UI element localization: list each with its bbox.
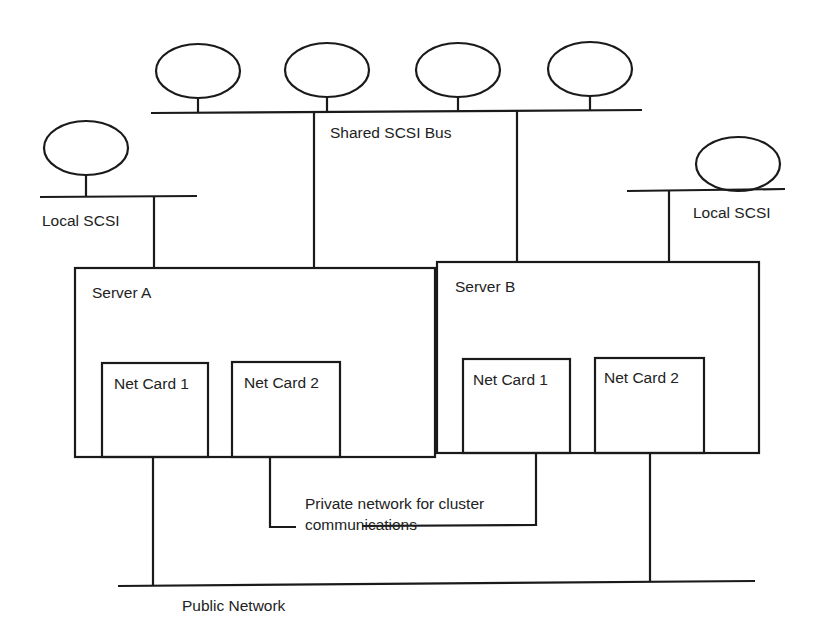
public-network-line [118,581,755,586]
server-b-label: Server B [455,278,515,296]
local-disk-a [44,121,128,196]
public-network-label: Public Network [182,597,285,615]
local-scsi-a-label: Local SCSI [42,212,120,230]
server-a-label: Server A [92,284,151,302]
private-network-label-line-2: communications [305,516,417,534]
shared-disk-1 [156,44,240,112]
shared-disk-2 [285,43,369,112]
private-network-label-line-1: Private network for cluster [305,495,484,513]
local-scsi-bus-a-line [40,196,197,197]
server-a-net-card-1-label: Net Card 1 [114,375,189,393]
local-disk-b [696,137,780,191]
local-scsi-bus-b-line [627,189,785,191]
server-a-net-card-2-label: Net Card 2 [244,374,319,392]
shared-disk-3 [416,43,500,111]
shared-scsi-bus-label: Shared SCSI Bus [330,124,451,142]
server-b-net-card-2-label: Net Card 2 [604,369,679,387]
diagram-canvas [0,0,813,637]
cluster-diagram: Shared SCSI Bus Local SCSI Local SCSI Se… [0,0,813,637]
private-network-link-a [270,457,296,527]
server-b-net-card-1-label: Net Card 1 [473,371,548,389]
shared-scsi-bus-line [151,110,642,113]
shared-disk-4 [548,42,632,110]
local-scsi-b-label: Local SCSI [693,204,771,222]
